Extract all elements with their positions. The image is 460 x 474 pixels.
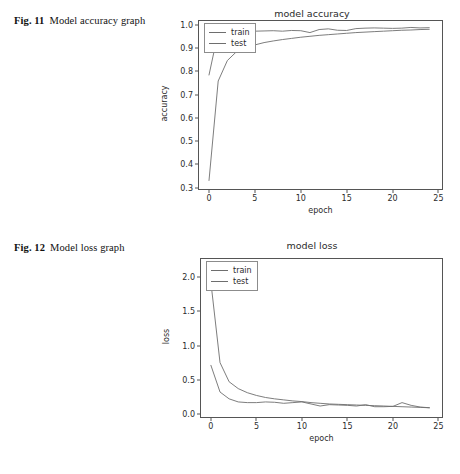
figure-model-accuracy: model accuracy accuracy epoch 0.30.40.50…	[168, 2, 456, 217]
legend-label-test: test	[231, 39, 246, 48]
legend-swatch-train-icon	[209, 32, 226, 33]
series-line-test	[211, 365, 429, 407]
legend-label-train: train	[233, 266, 252, 275]
legend-item-test: test	[209, 38, 250, 49]
legend-item-test: test	[211, 276, 252, 287]
legend-label-test: test	[233, 277, 248, 286]
legend-label-train: train	[231, 28, 250, 37]
legend-item-train: train	[211, 265, 252, 276]
figure-model-loss: model loss loss epoch 0.00.51.01.52.0051…	[168, 232, 456, 467]
legend-swatch-test-icon	[209, 43, 226, 44]
series-line-train	[211, 283, 429, 408]
legend-swatch-test-icon	[211, 281, 228, 282]
figure-caption-text-12: Model loss graph	[50, 242, 125, 253]
legend-loss: train test	[206, 261, 258, 291]
figure-caption-11: Fig. 11Model accuracy graph	[14, 14, 164, 28]
figure-number-12: Fig. 12	[14, 242, 45, 253]
legend-swatch-train-icon	[211, 270, 228, 271]
legend-item-train: train	[209, 27, 250, 38]
figure-caption-text-11: Model accuracy graph	[49, 15, 145, 26]
figure-number-11: Fig. 11	[14, 15, 44, 26]
legend-accuracy: train test	[204, 23, 256, 53]
